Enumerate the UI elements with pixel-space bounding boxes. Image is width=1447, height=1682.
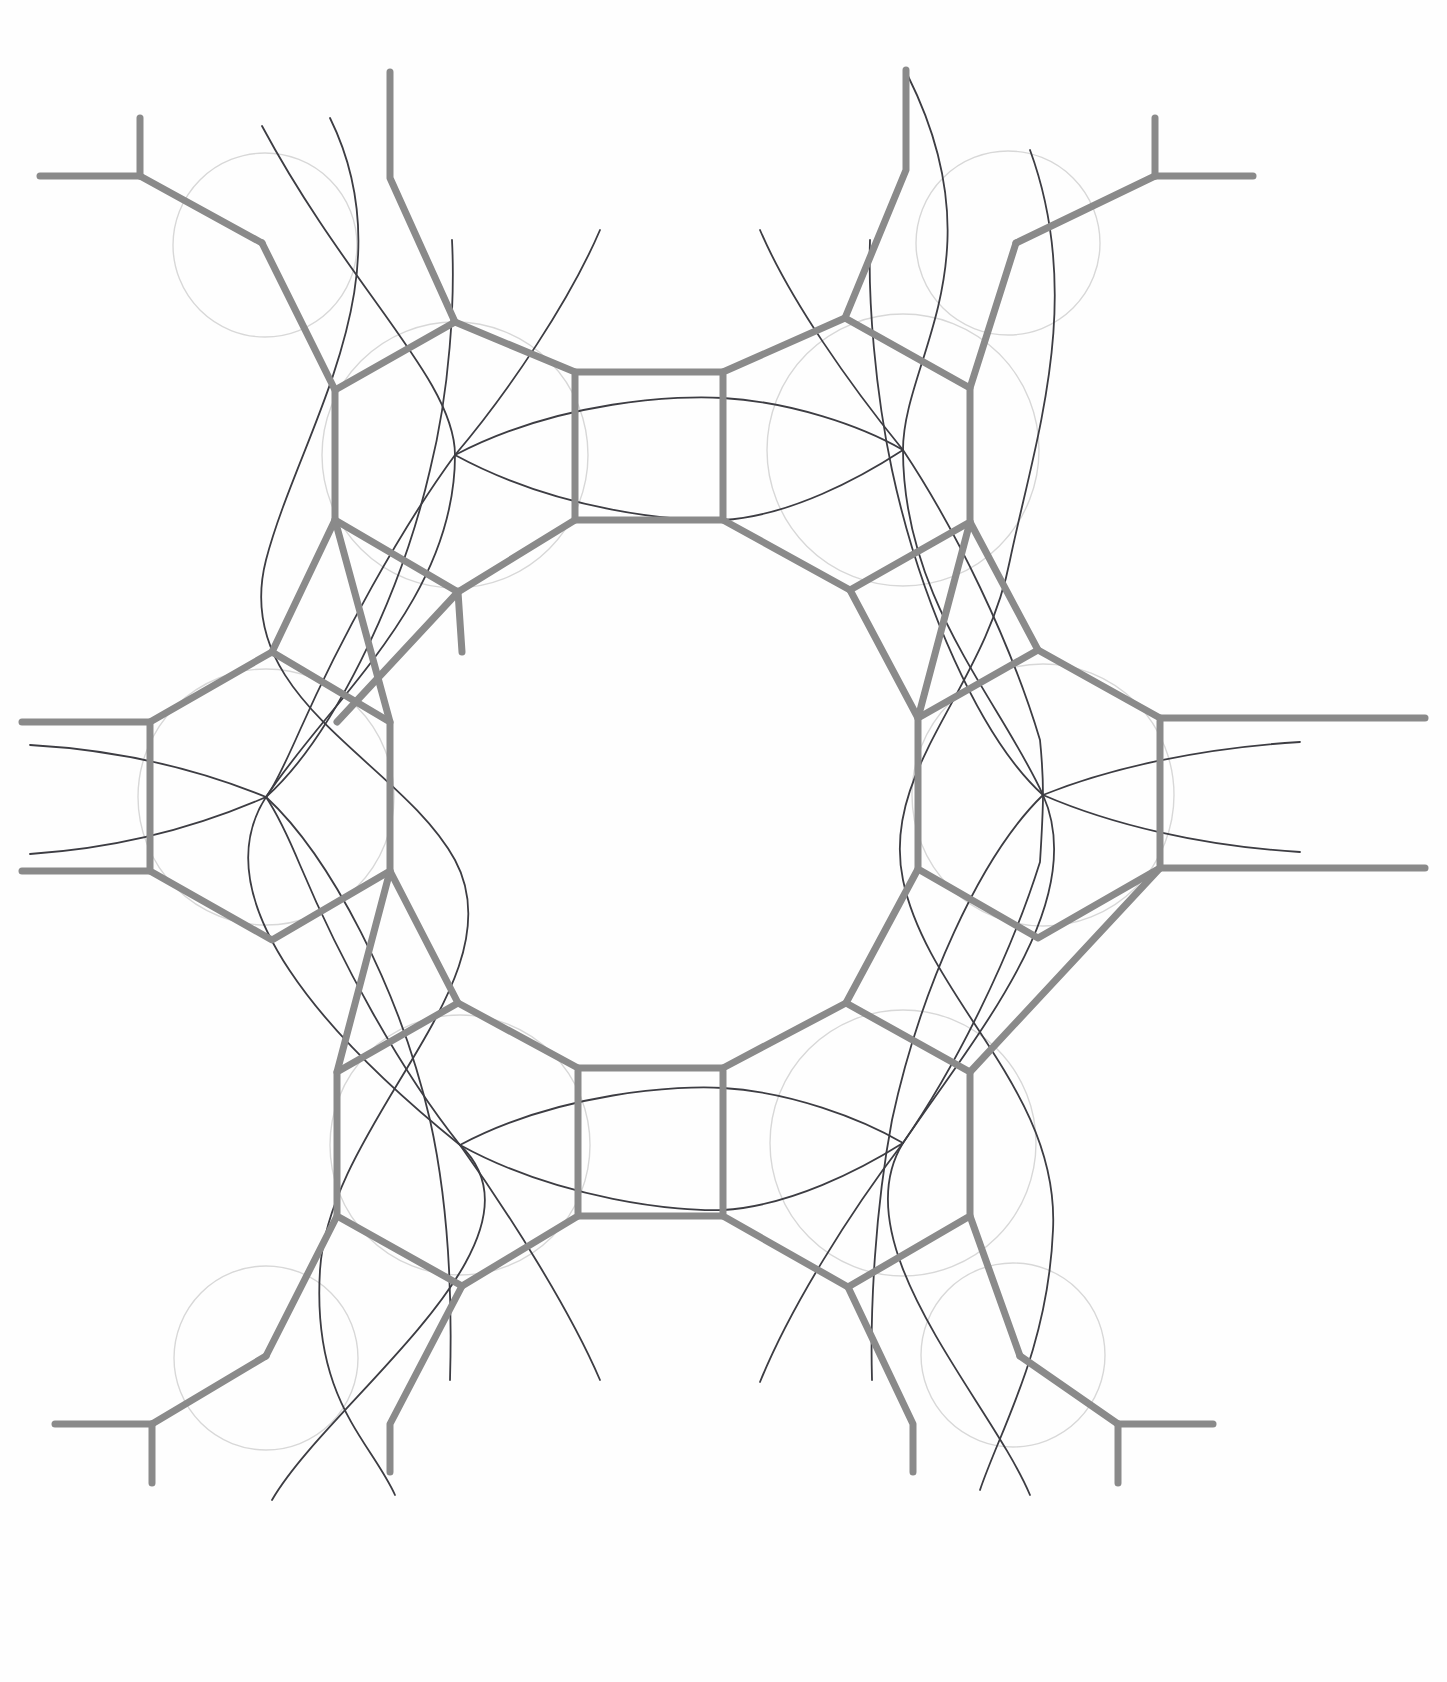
framework-diagram — [0, 0, 1447, 1682]
paper-background — [0, 0, 1447, 1682]
drawing-canvas — [0, 0, 1447, 1682]
